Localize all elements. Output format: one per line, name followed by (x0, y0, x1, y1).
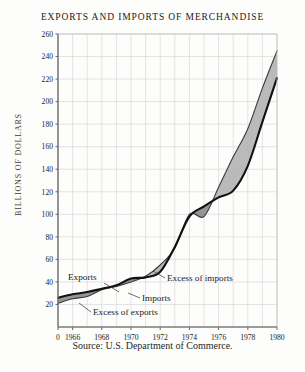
plot-frame (58, 34, 277, 327)
y-tick-label: 60 (45, 255, 53, 264)
chart-plot: 20406080100120140160180200220240260 0196… (0, 0, 305, 372)
y-tick-label: 20 (45, 300, 53, 309)
y-tick-labels-group: 20406080100120140160180200220240260 (42, 30, 58, 309)
y-tick-label: 160 (42, 142, 54, 151)
y-tick-label: 140 (42, 165, 54, 174)
y-tick-label: 80 (45, 233, 53, 242)
y-tick-label: 240 (42, 52, 54, 61)
y-tick-label: 120 (42, 188, 54, 197)
annotation-excess-of-imports: Excess of imports (167, 273, 233, 283)
imports-line (58, 51, 277, 303)
chart-page: EXPORTS AND IMPORTS OF MERCHANDISE BILLI… (0, 0, 305, 372)
source-note: Source: U.S. Department of Commerce. (0, 340, 305, 351)
y-tick-label: 200 (42, 97, 54, 106)
annotation-exports: Exports (68, 272, 97, 282)
annotation-imports: Imports (142, 293, 171, 303)
y-tick-label: 220 (42, 75, 54, 84)
data-series-group (58, 51, 277, 303)
annotation-excess-of-exports: Excess of exports (93, 307, 158, 317)
y-tick-label: 180 (42, 120, 54, 129)
exports-line (58, 78, 277, 298)
y-tick-label: 40 (45, 278, 53, 287)
y-tick-label: 260 (42, 30, 54, 39)
y-tick-label: 100 (42, 210, 54, 219)
leader-imports (128, 293, 140, 298)
axis-lines-group (58, 34, 277, 327)
gridlines-group (58, 34, 277, 327)
